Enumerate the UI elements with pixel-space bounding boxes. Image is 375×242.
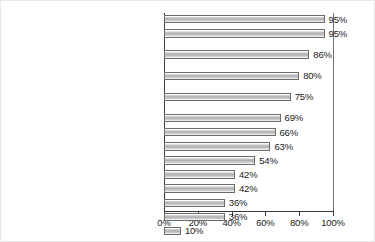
- chart-bar: [164, 199, 225, 207]
- chart-value-label: 54%: [259, 155, 277, 166]
- chart-value-label: 69%: [285, 112, 303, 123]
- chart-value-label: 66%: [280, 127, 298, 138]
- chart-bar-row: 80%Community development functions: [164, 69, 333, 83]
- chart-bar-row: 36%Retail development: [164, 197, 333, 211]
- chart-bar: [164, 72, 299, 80]
- chart-value-label: 36%: [229, 197, 247, 208]
- chart-value-label: 36%: [229, 211, 247, 222]
- chart-bar: [164, 114, 281, 122]
- chart-value-label: 95%: [329, 28, 347, 39]
- plot-right-border: [333, 13, 334, 212]
- chart-bar-row: 95%Retention and expansion: [164, 13, 333, 27]
- chart-value-label: 10%: [185, 225, 203, 236]
- chart-bar: [164, 15, 325, 23]
- chart-bar: [164, 170, 235, 178]
- plot-area: 95%Retention and expansion95%Marketing/r…: [164, 13, 333, 211]
- chart-bar: [164, 156, 255, 164]
- chart-value-label: 75%: [295, 91, 313, 102]
- chart-bar-row: 63%Provide or assist with loans or grant…: [164, 140, 333, 154]
- chart-value-label: 86%: [313, 49, 331, 60]
- chart-bar: [164, 50, 309, 58]
- chart-value-label: 42%: [239, 169, 257, 180]
- chart-bar-row: 95%Marketing/recruitment: [164, 27, 333, 41]
- chart-bar: [164, 93, 291, 101]
- chart-bar-row: 10%Other: [164, 225, 333, 239]
- chart-bar: [164, 184, 235, 192]
- chart-value-label: 42%: [239, 183, 257, 194]
- chart-bar: [164, 142, 270, 150]
- chart-bar: [164, 227, 181, 235]
- chart-bar-row: 54%Property development/redevelopment: [164, 154, 333, 168]
- chart-bar-row: 42%Permitting assistance for businesses: [164, 182, 333, 196]
- chart-bar: [164, 29, 325, 37]
- chart-bar-row: 86%Economic development planningfor the …: [164, 41, 333, 69]
- chart-value-label: 63%: [274, 141, 292, 152]
- chart-value-label: 80%: [303, 70, 321, 81]
- chart-bar: [164, 213, 225, 221]
- chart-bar-row: 36%Downtown development: [164, 211, 333, 225]
- chart-bar-row: 66%Research/data analysis: [164, 126, 333, 140]
- chart-bar-row: 69%Workforce development: [164, 112, 333, 126]
- chart-figure: 0%20%40%60%80%100% 95%Retention and expa…: [0, 0, 375, 242]
- chart-bar: [164, 128, 276, 136]
- chart-bar-row: 75%New business start-upsand entrepreneu…: [164, 84, 333, 112]
- chart-bar-row: 42%Leadership development: [164, 168, 333, 182]
- x-axis-tick: [333, 212, 334, 216]
- chart-value-label: 95%: [329, 14, 347, 25]
